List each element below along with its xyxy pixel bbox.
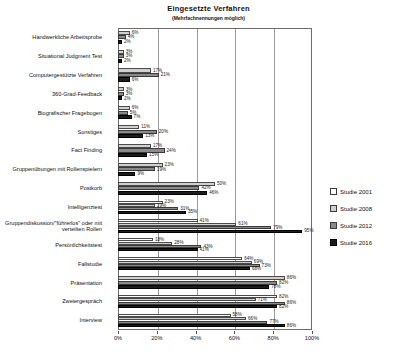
bar-value-label: 24% [167, 148, 176, 153]
bar-s2016 [118, 248, 198, 251]
bar-value-label: 41% [200, 247, 209, 252]
bar-row: Interview58%66%77%86% [0, 311, 417, 330]
category-label: Sonstiges [0, 122, 105, 141]
bar-s2016 [118, 59, 122, 63]
legend-label: Studie 2008 [340, 206, 372, 212]
legend-item-s2001[interactable]: Studie 2001 [330, 188, 372, 195]
bar-group: 3%3%2% [118, 47, 417, 66]
bar-s2008 [118, 125, 139, 129]
bar-s2008 [118, 144, 151, 148]
bar-group: 82%71%86%82% [118, 292, 417, 311]
bar-group: 18%28%43%41% [118, 236, 417, 255]
bar-s2008 [118, 106, 130, 110]
category-label: Situational Judgment Test [0, 47, 105, 66]
bar-row: Präsentation86%82%78% [0, 273, 417, 292]
legend-swatch-icon [330, 205, 337, 212]
bar-group: 6%5%7% [118, 104, 417, 123]
bar-value-label: 11% [141, 124, 150, 129]
category-label: Gruppendiskussion/"führerlos" oder mit v… [0, 217, 105, 236]
legend-swatch-icon [330, 188, 337, 195]
bar-s2016 [118, 115, 132, 119]
chart-container: Eingesetzte Verfahren (Mehrfachnennungen… [0, 0, 417, 357]
x-axis-tick [234, 331, 235, 334]
chart-title: Eingesetzte Verfahren [0, 4, 417, 14]
category-label: Postkorb [0, 179, 105, 198]
x-axis-tick-label: 20% [151, 335, 162, 341]
bar-group: 64%69%73%68% [118, 255, 417, 274]
category-label: Computergestützte Verfahren [0, 66, 105, 85]
bar-s2016 [118, 153, 147, 157]
bar-s2008 [118, 182, 215, 186]
category-label: Fact Finding [0, 141, 105, 160]
bar-group: 3%3%2% [118, 85, 417, 104]
bar-s2008 [118, 87, 124, 91]
bar-s2012 [118, 281, 277, 285]
bar-group: 23%19%9% [118, 160, 417, 179]
bar-value-label: 50% [217, 181, 226, 186]
bar-group: 58%66%77%86% [118, 311, 417, 330]
legend-swatch-icon [330, 222, 337, 229]
chart-title-block: Eingesetzte Verfahren (Mehrfachnennungen… [0, 4, 417, 22]
bar-value-label: 19% [157, 167, 166, 172]
bar-s2016 [118, 77, 130, 81]
category-label: Handwerkliche Arbeitsprobe [0, 28, 105, 47]
legend-item-s2008[interactable]: Studie 2008 [330, 205, 372, 212]
bar-value-label: 17% [153, 143, 162, 148]
bar-s2008 [118, 68, 151, 72]
category-label: Interview [0, 311, 105, 330]
bar-rows: Handwerkliche Arbeitsprobe6%4%2%Situatio… [0, 28, 417, 330]
bar-s2016 [118, 134, 143, 138]
bar-s2016 [118, 211, 186, 214]
bar-row: Biografischer Fragebogen6%5%7% [0, 104, 417, 123]
category-label: Zweiergespräch [0, 292, 105, 311]
bar-group: 41%61%79%95% [118, 217, 417, 236]
bar-value-label: 7% [134, 114, 141, 119]
x-axis-tick [196, 331, 197, 334]
bar-value-label: 2% [124, 39, 131, 44]
bar-s2008 [118, 50, 124, 54]
bar-value-label: 46% [209, 190, 218, 195]
bar-s2016 [118, 40, 122, 44]
bar-s2016 [118, 230, 302, 233]
bar-s2016 [118, 191, 207, 195]
bar-value-label: 82% [279, 294, 288, 299]
bar-value-label: 21% [161, 72, 170, 77]
bar-group: 17%24%15% [118, 141, 417, 160]
x-axis-tick [273, 331, 274, 334]
category-label: Persönlichkeitstest [0, 236, 105, 255]
bar-group: 11%20%13% [118, 122, 417, 141]
bar-s2012 [118, 73, 159, 77]
legend-label: Studie 2016 [340, 240, 372, 246]
bar-s2012 [118, 186, 199, 190]
legend-item-s2012[interactable]: Studie 2012 [330, 222, 372, 229]
bar-value-label: 13% [145, 133, 154, 138]
bar-group: 86%82%78% [118, 273, 417, 292]
bar-value-label: 82% [279, 304, 288, 309]
legend-swatch-icon [330, 239, 337, 246]
bar-value-label: 20% [159, 129, 168, 134]
bar-s2008 [118, 276, 285, 280]
category-label: Präsentation [0, 273, 105, 292]
chart-legend: Studie 2001Studie 2008Studie 2012Studie … [330, 188, 372, 256]
bar-row: Situational Judgment Test3%3%2% [0, 47, 417, 66]
bar-row: Computergestützte Verfahren17%21%6% [0, 66, 417, 85]
x-axis-tick [312, 331, 313, 334]
legend-item-s2016[interactable]: Studie 2016 [330, 239, 372, 246]
bar-value-label: 95% [304, 228, 313, 233]
bar-row: Fallstudie64%69%73%68% [0, 255, 417, 274]
bar-group: 50%42%46% [118, 179, 417, 198]
bar-row: Zweiergespräch82%71%86%82% [0, 292, 417, 311]
bar-s2016 [118, 305, 277, 308]
bar-value-label: 86% [287, 323, 296, 328]
legend-label: Studie 2012 [340, 223, 372, 229]
bar-value-label: 78% [271, 284, 280, 289]
bar-group: 23%19%31%35% [118, 198, 417, 217]
bar-value-label: 2% [124, 96, 131, 101]
chart-subtitle: (Mehrfachnennungen möglich) [0, 14, 417, 22]
bar-value-label: 9% [137, 171, 144, 176]
bar-value-label: 15% [149, 152, 158, 157]
x-axis-tick [118, 331, 119, 334]
bar-s2016 [118, 96, 122, 100]
category-label: 360-Grad-Feedback [0, 85, 105, 104]
bar-row: Handwerkliche Arbeitsprobe6%4%2% [0, 28, 417, 47]
